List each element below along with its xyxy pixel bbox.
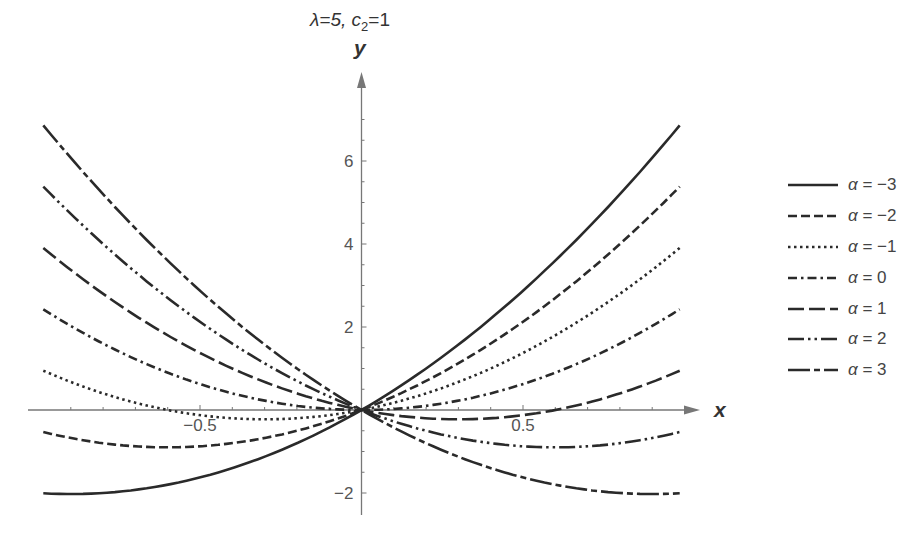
x-tick-label: −0.5 <box>183 416 217 435</box>
legend-label: α = 0 <box>848 268 887 288</box>
x-axis-label: x <box>714 398 726 422</box>
title-lambda: λ=5, <box>310 9 346 30</box>
legend-line-icon <box>788 180 838 190</box>
legend-label: α = 2 <box>848 329 887 349</box>
legend-line-icon <box>788 242 838 252</box>
y-tick-label: 4 <box>344 235 353 254</box>
y-axis-label: y <box>354 36 366 60</box>
legend-line-icon <box>788 211 838 221</box>
legend-label: α = 1 <box>848 299 887 319</box>
legend-label: α = −2 <box>848 206 896 226</box>
y-tick-label: 2 <box>344 318 353 337</box>
legend-label: α = 3 <box>848 360 887 380</box>
legend-line-icon <box>788 334 838 344</box>
legend: α = −3 α = −2 α = −1 α = 0 α = 1 α = 2 α… <box>788 170 918 386</box>
legend-item: α = 2 <box>788 324 918 355</box>
legend-item: α = 0 <box>788 262 918 293</box>
y-tick-label: −2 <box>334 484 353 503</box>
title-c-value: =1 <box>368 9 390 30</box>
x-axis-arrow-icon <box>684 406 700 415</box>
legend-item: α = 3 <box>788 355 918 386</box>
chart-title: λ=5, c2=1 <box>310 9 390 34</box>
chart-canvas: −0.50.5−2246 <box>0 0 921 541</box>
axes: −0.50.5−2246 <box>28 72 700 515</box>
legend-item: α = −1 <box>788 232 918 263</box>
x-tick-label: 0.5 <box>511 416 535 435</box>
legend-label: α = −3 <box>848 175 896 195</box>
legend-label: α = −1 <box>848 237 896 257</box>
y-axis-arrow-icon <box>357 72 366 88</box>
legend-line-icon <box>788 304 838 314</box>
title-c: c <box>352 9 362 30</box>
legend-item: α = −2 <box>788 201 918 232</box>
legend-item: α = 1 <box>788 293 918 324</box>
legend-line-icon <box>788 365 838 375</box>
legend-item: α = −3 <box>788 170 918 201</box>
legend-line-icon <box>788 273 838 283</box>
y-tick-label: 6 <box>344 152 353 171</box>
